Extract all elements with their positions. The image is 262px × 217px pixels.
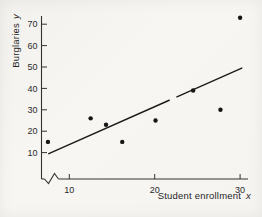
y-tick-label: 50 <box>27 62 37 72</box>
y-axis-label-text: Burglaries <box>10 23 21 68</box>
best-fit-line <box>177 68 242 97</box>
y-tick-label: 70 <box>27 19 37 29</box>
x-axis-label: Student enrollmentx <box>158 190 252 201</box>
x-tick-label: 10 <box>64 185 74 195</box>
best-fit-line <box>49 100 169 153</box>
data-point <box>218 108 222 112</box>
data-point <box>46 140 50 144</box>
data-point <box>88 116 92 120</box>
y-axis-label-variable: y <box>10 13 21 20</box>
data-point <box>153 118 157 122</box>
y-axis-label: Burglariesy <box>10 13 21 68</box>
scatter-plot-figure: 10203040506070102030BurglariesyStudent e… <box>0 0 262 217</box>
data-point <box>104 123 108 127</box>
y-tick-label: 40 <box>27 84 37 94</box>
y-tick-label: 10 <box>27 148 37 158</box>
data-point <box>191 88 195 92</box>
y-tick-label: 30 <box>27 105 37 115</box>
y-tick-label: 60 <box>27 41 37 51</box>
x-axis-label-text: Student enrollment <box>158 190 242 201</box>
x-axis-label-variable: x <box>245 190 252 201</box>
y-tick-label: 20 <box>27 126 37 136</box>
axis-break-icon <box>45 174 59 184</box>
data-point <box>120 140 124 144</box>
scatter-plot-svg: 10203040506070102030BurglariesyStudent e… <box>0 0 262 217</box>
data-point <box>238 16 242 20</box>
